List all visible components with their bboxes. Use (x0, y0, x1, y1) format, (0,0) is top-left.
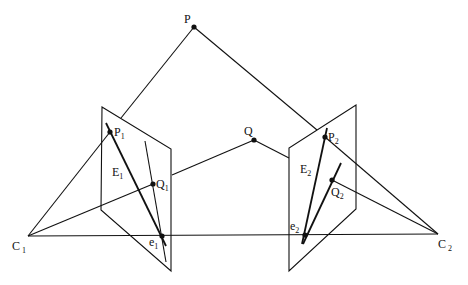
point-e1 (159, 233, 164, 238)
label-p: P (184, 12, 191, 26)
label-c1: C1 (12, 239, 26, 255)
label-q2: Q2 (331, 185, 344, 201)
label-e2: e2 (290, 219, 299, 235)
baseline-c1-c2 (28, 234, 438, 236)
point-p2 (322, 134, 327, 139)
point-q2 (329, 177, 334, 182)
label-e1: e1 (149, 235, 158, 251)
point-p (191, 24, 196, 29)
point-p1 (107, 129, 112, 134)
label-q: Q (244, 124, 253, 138)
ray-p-to-left-plane (121, 27, 194, 118)
label-q1: Q1 (156, 177, 169, 193)
label-epipolar-e1: E1 (112, 165, 123, 181)
ray-p-to-right-plane (194, 27, 317, 130)
point-q1 (150, 181, 155, 186)
label-c2: C2 (438, 237, 452, 253)
label-p2: P2 (328, 130, 339, 146)
label-epipolar-e2: E2 (300, 162, 311, 178)
point-q (251, 137, 256, 142)
epipolar-line-e2 (302, 128, 327, 244)
ray-q-to-right-plane (254, 140, 289, 158)
epipolar-geometry-diagram: P Q P1 Q1 e1 E1 P2 Q2 e2 E2 C1 C2 (0, 0, 468, 285)
point-e2 (302, 232, 307, 237)
ray-q-to-left-plane (172, 140, 254, 175)
ray-c1-p1 (28, 132, 110, 236)
ray-c1-q1 (28, 184, 153, 236)
label-p1: P1 (114, 125, 125, 141)
right-image-plane (289, 105, 356, 271)
